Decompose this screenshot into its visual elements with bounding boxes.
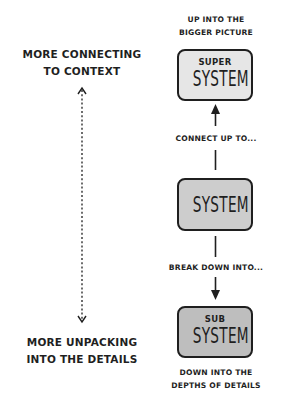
down-arrowhead-icon: [211, 290, 220, 300]
sub-system-caption: DOWN INTO THE DEPTHS OF DETAILS: [161, 366, 271, 392]
up-arrowhead-icon: [211, 104, 220, 114]
more-connecting-label: MORE CONNECTING TO CONTEXT: [2, 46, 162, 80]
sub-system-box: SUB SYSTEM: [177, 306, 253, 358]
connect-up-label: CONNECT UP TO...: [153, 133, 279, 144]
super-caption-line-1: UP INTO THE: [161, 13, 271, 26]
system-box: SYSTEM: [177, 178, 253, 231]
sub-big-text: SYSTEM: [193, 324, 238, 348]
more-connecting-line-2: TO CONTEXT: [2, 63, 162, 80]
super-caption-line-2: BIGGER PICTURE: [161, 26, 271, 39]
super-system-caption: UP INTO THE BIGGER PICTURE: [161, 13, 271, 39]
super-big-text: SYSTEM: [193, 67, 238, 91]
more-unpacking-line-1: MORE UNPACKING: [2, 334, 162, 351]
super-system-box: SUPER SYSTEM: [177, 49, 253, 101]
sub-caption-line-1: DOWN INTO THE: [161, 366, 271, 379]
sub-caption-line-2: DEPTHS OF DETAILS: [161, 379, 271, 392]
more-unpacking-label: MORE UNPACKING INTO THE DETAILS: [2, 334, 162, 368]
system-big-text: SYSTEM: [193, 193, 238, 217]
break-down-label: BREAK DOWN INTO...: [153, 262, 279, 273]
more-connecting-line-1: MORE CONNECTING: [2, 46, 162, 63]
more-unpacking-line-2: INTO THE DETAILS: [2, 351, 162, 368]
